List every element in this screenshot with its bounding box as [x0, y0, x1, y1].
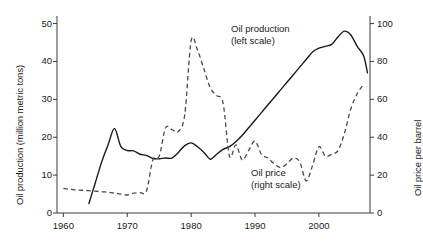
left-tick-label-30: 30 — [26, 93, 52, 104]
left-tick-label-20: 20 — [26, 131, 52, 142]
bottom-axis-ticks — [63, 213, 319, 217]
left-axis-title: Oil production (million metric tons) — [14, 65, 25, 205]
oil-production-annotation: Oil production (left scale) — [231, 23, 290, 46]
left-tick-label-50: 50 — [26, 18, 52, 29]
oil-price-annotation: Oil price (right scale) — [251, 167, 301, 190]
oil-price-line — [63, 37, 363, 195]
left-tick-label-40: 40 — [26, 55, 52, 66]
oil-production-annotation-line1: Oil production — [231, 23, 290, 35]
x-tick-label-2000: 2000 — [299, 220, 339, 231]
oil-production-line — [89, 31, 368, 203]
left-tick-label-10: 10 — [26, 169, 52, 180]
left-tick-label-0: 0 — [26, 207, 52, 218]
right-tick-label-40: 40 — [377, 131, 403, 142]
right-tick-label-20: 20 — [377, 169, 403, 180]
x-tick-label-1960: 1960 — [43, 220, 83, 231]
right-tick-label-80: 80 — [377, 55, 403, 66]
right-axis-title: Oil price per barrel — [412, 120, 423, 196]
left-axis-ticks — [53, 24, 57, 213]
x-tick-label-1990: 1990 — [235, 220, 275, 231]
right-tick-label-0: 0 — [377, 207, 403, 218]
x-tick-label-1980: 1980 — [171, 220, 211, 231]
oil-production-annotation-line2: (left scale) — [231, 35, 290, 47]
oil-price-annotation-line1: Oil price — [251, 167, 301, 179]
right-tick-label-100: 100 — [377, 18, 403, 29]
right-axis-ticks — [370, 24, 374, 213]
oil-price-annotation-line2: (right scale) — [251, 179, 301, 191]
right-tick-label-60: 60 — [377, 93, 403, 104]
x-tick-label-1970: 1970 — [107, 220, 147, 231]
axis-lines — [57, 16, 370, 213]
